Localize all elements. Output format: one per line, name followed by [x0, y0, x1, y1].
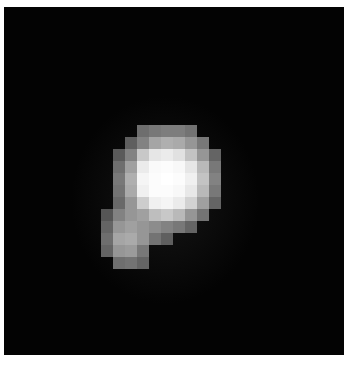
pixel-cell [137, 149, 149, 161]
pixel-cell [173, 173, 185, 185]
pixel-cell [185, 221, 197, 233]
pixel-cell [197, 161, 209, 173]
pixel-cell [113, 197, 125, 209]
pixel-cell [161, 233, 173, 245]
pixel-cell [101, 233, 113, 245]
pixel-cell [101, 245, 113, 257]
pixel-cell [125, 197, 137, 209]
pixel-cell [149, 161, 161, 173]
pixel-cell [125, 209, 137, 221]
pixel-cell [161, 125, 173, 137]
pixel-cell [149, 173, 161, 185]
pixel-cell [137, 161, 149, 173]
pixel-cell [209, 173, 221, 185]
pixel-cell [125, 161, 137, 173]
pixel-cell [161, 173, 173, 185]
pixel-cell [125, 221, 137, 233]
pixel-cell [125, 233, 137, 245]
bright-blob [0, 0, 344, 368]
pixel-cell [113, 161, 125, 173]
pixel-cell [149, 233, 161, 245]
pixel-cell [161, 161, 173, 173]
pixel-cell [149, 185, 161, 197]
pixel-cell [149, 221, 161, 233]
pixel-cell [173, 137, 185, 149]
pixel-cell [113, 221, 125, 233]
pixel-cell [113, 257, 125, 269]
pixel-cell [161, 221, 173, 233]
pixel-cell [173, 197, 185, 209]
pixel-cell [161, 137, 173, 149]
pixel-cell [137, 197, 149, 209]
pixel-cell [161, 149, 173, 161]
pixel-cell [125, 257, 137, 269]
pixel-cell [113, 173, 125, 185]
pixel-cell [149, 125, 161, 137]
pixel-cell [173, 185, 185, 197]
pixel-cell [137, 221, 149, 233]
pixel-cell [185, 197, 197, 209]
pixel-cell [197, 137, 209, 149]
pixel-cell [173, 125, 185, 137]
pixel-cell [185, 137, 197, 149]
pixel-cell [137, 185, 149, 197]
pixel-cell [113, 149, 125, 161]
pixel-cell [125, 173, 137, 185]
pixel-cell [113, 185, 125, 197]
pixel-cell [137, 257, 149, 269]
pixel-cell [101, 209, 113, 221]
pixel-cell [125, 137, 137, 149]
pixel-cell [137, 245, 149, 257]
pixel-cell [137, 137, 149, 149]
pixel-cell [185, 149, 197, 161]
pixel-cell [197, 209, 209, 221]
pixel-cell [173, 161, 185, 173]
pixel-cell [161, 209, 173, 221]
pixel-cell [125, 149, 137, 161]
pixel-cell [185, 161, 197, 173]
pixel-cell [161, 197, 173, 209]
pixel-cell [197, 197, 209, 209]
pixel-cell [197, 149, 209, 161]
pixel-cell [149, 149, 161, 161]
pixel-cell [113, 209, 125, 221]
pixel-cell [197, 185, 209, 197]
pixel-cell [149, 209, 161, 221]
pixel-cell [101, 221, 113, 233]
pixel-cell [209, 185, 221, 197]
pixel-cell [209, 161, 221, 173]
pixel-cell [185, 185, 197, 197]
pixel-cell [173, 221, 185, 233]
pixel-cell [173, 149, 185, 161]
pixel-cell [161, 185, 173, 197]
pixel-cell [209, 197, 221, 209]
pixel-cell [125, 245, 137, 257]
pixel-cell [137, 209, 149, 221]
pixel-cell [113, 245, 125, 257]
pixel-cell [185, 125, 197, 137]
pixel-cell [209, 149, 221, 161]
pixel-cell [125, 185, 137, 197]
pixel-cell [137, 173, 149, 185]
pixel-cell [137, 233, 149, 245]
pixel-cell [185, 173, 197, 185]
pixel-cell [173, 209, 185, 221]
pixel-cell [185, 209, 197, 221]
pixel-cell [149, 137, 161, 149]
pixel-cell [137, 125, 149, 137]
pixel-cell [113, 233, 125, 245]
pixel-cell [149, 197, 161, 209]
pixel-cell [197, 173, 209, 185]
